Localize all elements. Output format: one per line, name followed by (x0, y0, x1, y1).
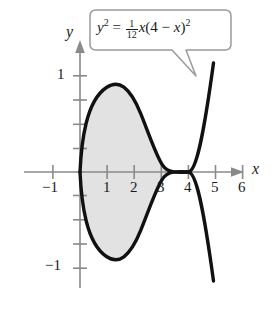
y-axis-arrowhead (75, 40, 85, 53)
x-tick-label-neg1: −1 (42, 179, 58, 196)
y-axis-label: y (66, 23, 73, 41)
equation-rhs-exponent: 2 (185, 17, 190, 28)
equation-lhs-exponent: 2 (104, 17, 109, 28)
x-tick-label-6: 6 (238, 179, 246, 196)
equation-equals-sign: = (112, 19, 120, 35)
equation-lhs-variable: y (97, 19, 104, 35)
x-tick-label-5: 5 (211, 179, 219, 196)
curve-plot (0, 0, 279, 309)
x-axis-label: x (252, 160, 259, 178)
equation-constant: 4 (150, 19, 158, 35)
equation-callout-text: y2 = 112x(4 − x)2 (97, 17, 190, 41)
fraction-denominator: 12 (126, 30, 138, 41)
x-tick-label-1: 1 (103, 179, 111, 196)
y-tick-label-neg1: −1 (45, 257, 61, 274)
y-tick-label-1: 1 (57, 66, 65, 83)
equation-minus-sign: − (162, 19, 170, 35)
equation-fraction: 112 (126, 19, 138, 41)
x-tick-label-4: 4 (184, 179, 192, 196)
x-tick-label-2: 2 (130, 179, 138, 196)
x-tick-label-3: 3 (157, 179, 165, 196)
figure-container: y x −1 1 2 3 4 5 6 1 −1 y2 = 112x(4 − x)… (0, 0, 279, 309)
